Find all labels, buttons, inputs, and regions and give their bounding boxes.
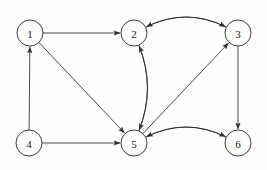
node-label-5: 5 <box>131 138 137 150</box>
edge-5-to-2 <box>139 46 148 131</box>
edge-5-to-3 <box>143 43 228 133</box>
node-label-6: 6 <box>235 138 241 150</box>
directed-graph-figure: 123456 <box>0 0 267 170</box>
node-4[interactable]: 4 <box>16 130 42 156</box>
nodes-layer: 123456 <box>16 20 251 156</box>
graph-canvas: 123456 <box>0 0 267 170</box>
node-6[interactable]: 6 <box>225 130 251 156</box>
edge-1-to-5 <box>39 42 124 132</box>
node-label-2: 2 <box>131 28 137 40</box>
node-label-4: 4 <box>26 138 32 150</box>
node-label-3: 3 <box>235 28 241 40</box>
node-label-1: 1 <box>27 28 33 40</box>
node-3[interactable]: 3 <box>225 20 251 46</box>
node-1[interactable]: 1 <box>17 20 43 46</box>
edge-4-to-1 <box>29 47 30 130</box>
node-5[interactable]: 5 <box>121 130 147 156</box>
node-2[interactable]: 2 <box>121 20 147 46</box>
